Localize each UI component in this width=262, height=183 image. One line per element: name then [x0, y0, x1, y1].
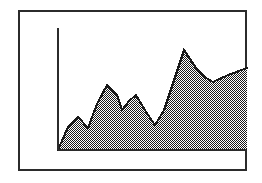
- area-fill-region: [58, 50, 247, 150]
- area-chart-canvas: [0, 0, 262, 183]
- chart-figure: [0, 0, 262, 183]
